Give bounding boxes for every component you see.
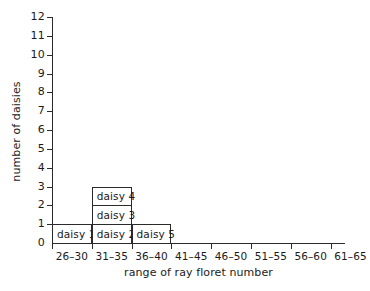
y-tick	[47, 92, 52, 93]
y-tick	[47, 17, 52, 18]
y-tick-label: 12	[3, 11, 45, 22]
y-tick-label: 10	[3, 49, 45, 60]
y-tick-label-wrap: 10	[0, 49, 45, 60]
bar-segment: daisy 2	[92, 224, 132, 244]
y-tick-label-wrap: 8	[0, 86, 45, 97]
y-tick	[47, 130, 52, 131]
x-tick-label: 61–65	[331, 250, 370, 262]
y-axis-title: number of daisies	[10, 72, 23, 192]
y-tick	[47, 168, 52, 169]
x-tick-label: 46–50	[211, 250, 251, 262]
y-tick-label-wrap: 4	[0, 162, 45, 173]
x-tick	[211, 244, 212, 249]
y-tick	[47, 74, 52, 75]
y-tick-label: 1	[3, 218, 45, 229]
y-tick-label-wrap: 7	[0, 105, 45, 116]
x-tick-label: 56–60	[291, 250, 331, 262]
y-tick-label-wrap: 9	[0, 68, 45, 79]
y-tick-label-wrap: 0	[0, 237, 45, 248]
y-tick-label-wrap: 1	[0, 218, 45, 229]
x-tick	[291, 244, 292, 249]
bar-segment: daisy 4	[92, 187, 132, 207]
y-tick	[47, 111, 52, 112]
x-tick	[92, 244, 93, 249]
x-tick-label: 41–45	[171, 250, 211, 262]
y-tick-label-wrap: 11	[0, 30, 45, 41]
y-tick-label-wrap: 2	[0, 199, 45, 210]
y-axis-line	[52, 17, 53, 244]
y-tick-label-wrap: 12	[0, 11, 45, 22]
x-tick	[331, 244, 332, 249]
y-tick-label: 11	[3, 30, 45, 41]
y-tick-label-wrap: 3	[0, 181, 45, 192]
y-tick	[47, 55, 52, 56]
x-tick	[132, 244, 133, 249]
y-tick-label: 0	[3, 237, 45, 248]
y-tick-label-wrap: 5	[0, 143, 45, 154]
y-tick	[47, 149, 52, 150]
y-tick-label-wrap: 6	[0, 124, 45, 135]
bar-segment: daisy 3	[92, 205, 132, 225]
x-tick	[171, 244, 172, 249]
x-axis-title: range of ray floret number	[52, 266, 345, 279]
x-tick-label: 31–35	[92, 250, 132, 262]
y-tick	[47, 36, 52, 37]
x-tick-label: 51–55	[251, 250, 291, 262]
x-tick-label: 26–30	[52, 250, 92, 262]
y-tick	[47, 187, 52, 188]
x-tick	[251, 244, 252, 249]
x-tick	[52, 244, 53, 249]
y-tick	[47, 205, 52, 206]
bar-segment: daisy 1	[52, 224, 92, 244]
bar-segment: daisy 5	[132, 224, 172, 244]
x-tick-label: 36–40	[132, 250, 172, 262]
y-tick-label: 2	[3, 199, 45, 210]
